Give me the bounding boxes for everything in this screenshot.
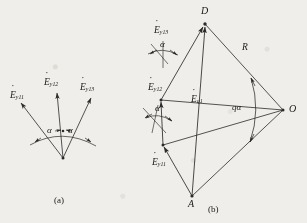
- panel-b-label-alpha-upper: α: [160, 40, 165, 49]
- panel-b-label-ey11: Ey11: [152, 158, 166, 168]
- panel-b-caption: (b): [208, 205, 219, 214]
- panel-b-phasor-ey12: [161, 102, 163, 145]
- panel-b-label-O: O: [289, 104, 296, 114]
- panel-b-label-q-alpha: qα: [232, 103, 241, 112]
- panel-b-label-ey11-symbol: E: [152, 157, 158, 167]
- panel-b-label-eq1-subscript: q1: [197, 98, 203, 104]
- panel-b-label-R: R: [242, 43, 248, 53]
- panel-b-label-ey11-subscript: y11: [158, 161, 166, 167]
- panel-b-label-D: D: [201, 6, 208, 16]
- panel-a-label-alpha-left: α: [47, 126, 52, 135]
- panel-b-phasor-ey11: [164, 147, 192, 196]
- panel-b-angle-upper-arrowhead-left: [150, 50, 157, 54]
- panel-a-label-alpha-right: α: [68, 126, 73, 135]
- panel-a-angle-arc: [30, 136, 96, 146]
- panel-b-angle-lower-arrowhead-right: [165, 116, 172, 121]
- panel-b-label-alpha-lower: α: [155, 104, 160, 113]
- panel-b-point-O: [282, 109, 285, 112]
- panel-b-label-eq1-symbol: E: [191, 94, 197, 104]
- panel-b-central-angle-arc: [250, 78, 256, 142]
- panel-a-arc-midpoint: [62, 130, 65, 133]
- panel-a-label-ey12: Ey12: [44, 78, 58, 88]
- panel-a-label-ey12-symbol: E: [44, 77, 50, 87]
- panel-a-label-ey13: Ey13: [80, 83, 94, 93]
- panel-a-label-ey11-subscript: y11: [16, 94, 24, 100]
- phasor-ey12-arrow: [57, 93, 63, 158]
- panel-b-label-eq1: Eq1: [191, 95, 203, 105]
- panel-b-resultant-eq1: [192, 27, 205, 196]
- panel-b-point-B: [162, 144, 165, 147]
- panel-b-radius-OC: [161, 100, 283, 110]
- panel-b-label-ey12: Ey12: [148, 83, 162, 93]
- panel-a-label-ey12-subscript: y12: [50, 81, 58, 87]
- panel-a-label-ey11: Ey11: [10, 91, 24, 101]
- panel-a-caption: (a): [54, 196, 64, 205]
- panel-b-point-D: [203, 22, 206, 25]
- panel-a-graphics: [21, 93, 96, 160]
- panel-b-point-C: [160, 99, 163, 102]
- panel-b-label-A: A: [188, 199, 194, 209]
- panel-b-label-ey12-symbol: E: [148, 82, 154, 92]
- panel-a-label-ey13-subscript: y13: [86, 86, 94, 92]
- panel-b-angle-upper-arrowhead-right: [170, 50, 177, 55]
- panel-b-label-ey13-subscript: y13: [160, 29, 168, 35]
- panel-a-label-ey13-symbol: E: [80, 82, 86, 92]
- panel-b-label-ey13-symbol: E: [154, 25, 160, 35]
- panel-b-label-ey13: Ey13: [154, 26, 168, 36]
- panel-b-label-ey12-subscript: y12: [154, 86, 162, 92]
- panel-a-label-ey11-symbol: E: [10, 90, 16, 100]
- panel-b-radius-OD: [205, 24, 283, 110]
